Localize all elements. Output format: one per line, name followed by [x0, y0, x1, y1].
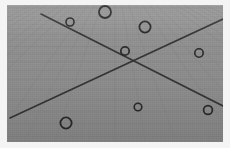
viewport-app: 3D Perspective Grid Viewport Gray perspe… — [0, 0, 230, 148]
render-canvas-3d[interactable] — [7, 5, 223, 142]
scene-svg — [7, 5, 223, 142]
viewport-frame — [0, 0, 230, 148]
